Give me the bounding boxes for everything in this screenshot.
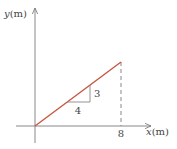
y-axis-label: y(m) [3,8,27,19]
x-axis-label: x(m) [146,126,169,137]
motion-diagram: y(m) x(m) 8 3 4 [0,0,177,149]
run-label: 4 [75,105,81,116]
x-tick-label-8: 8 [118,128,124,139]
data-line [35,62,121,126]
rise-label: 3 [94,88,100,99]
